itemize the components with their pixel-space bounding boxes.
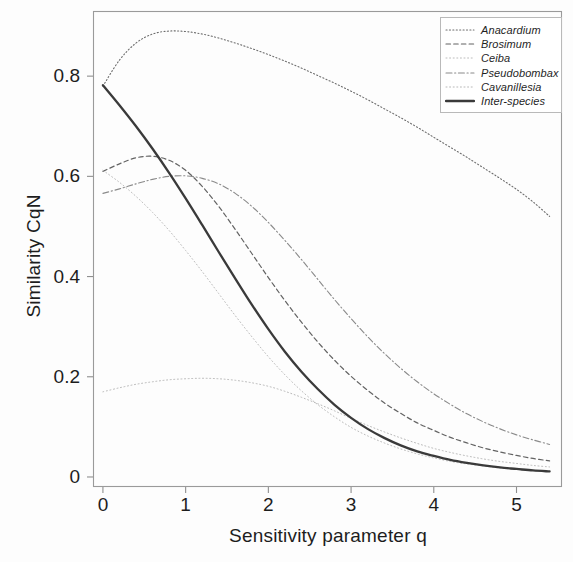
series-line-brosimum <box>103 156 550 461</box>
y-tick-label: 0.2 <box>22 366 80 388</box>
y-tick-label: 0.6 <box>22 165 80 187</box>
legend-line-sample-icon <box>445 52 475 64</box>
x-tick-label: 1 <box>166 494 206 516</box>
legend-item: Pseudobombax <box>445 66 558 80</box>
legend-line-sample-icon <box>445 67 475 79</box>
series-line-cavanillesia <box>103 378 550 467</box>
series-line-ceiba <box>103 170 550 471</box>
legend-label: Pseudobombax <box>481 67 559 79</box>
x-tick-label: 0 <box>83 494 123 516</box>
legend-label: Brosimum <box>481 38 531 50</box>
legend-label: Ceiba <box>481 52 510 64</box>
x-tick-label: 5 <box>497 494 537 516</box>
legend-label: Anacardium <box>481 24 541 36</box>
x-axis-title: Sensitivity parameter q <box>93 525 563 547</box>
legend-label: Cavanillesia <box>481 81 542 93</box>
chart-legend: AnacardiumBrosimumCeibaPseudobombaxCavan… <box>440 17 562 113</box>
legend-line-sample-icon <box>445 95 475 107</box>
x-axis-tick-labels: 012345 <box>0 494 573 524</box>
y-tick-label: 0 <box>22 466 80 488</box>
similarity-chart-figure: Similarity CqN Sensitivity parameter q 0… <box>0 0 573 562</box>
legend-line-sample-icon <box>445 38 475 50</box>
y-tick-label: 0.4 <box>22 266 80 288</box>
legend-item: Anacardium <box>445 23 558 37</box>
legend-item: Inter-species <box>445 94 558 108</box>
legend-item: Brosimum <box>445 37 558 51</box>
legend-item: Ceiba <box>445 51 558 65</box>
x-tick-label: 3 <box>331 494 371 516</box>
legend-line-sample-icon <box>445 81 475 93</box>
y-axis-tick-labels: 00.20.40.60.8 <box>18 0 80 562</box>
series-line-pseudobombax <box>103 176 550 445</box>
legend-item: Cavanillesia <box>445 80 558 94</box>
legend-label: Inter-species <box>481 95 545 107</box>
legend-line-sample-icon <box>445 24 475 36</box>
series-line-inter-species <box>103 85 550 471</box>
y-tick-label: 0.8 <box>22 65 80 87</box>
x-tick-label: 4 <box>414 494 454 516</box>
x-tick-label: 2 <box>248 494 288 516</box>
